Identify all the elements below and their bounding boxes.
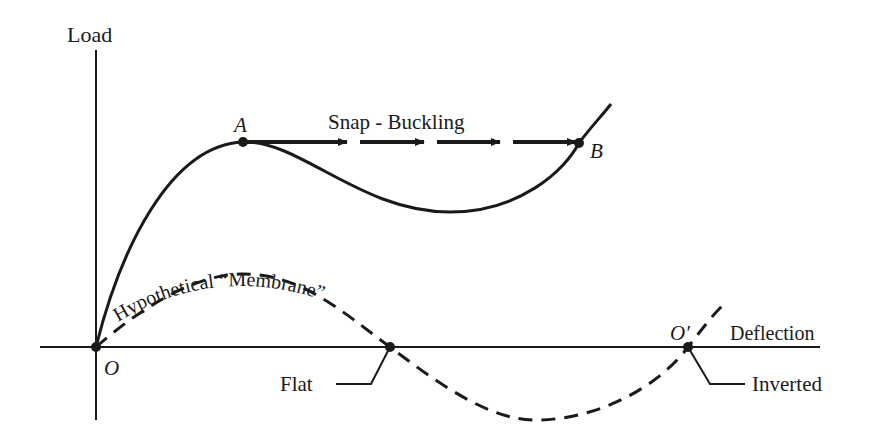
- membrane-label: Hypothetical “Membrane”: [109, 268, 328, 325]
- flat-leader: [336, 347, 390, 384]
- flat-label: Flat: [280, 372, 313, 396]
- snap-buckling-label: Snap - Buckling: [328, 110, 465, 134]
- y-axis-label: Load: [67, 22, 112, 47]
- label-o-prime: O′: [670, 321, 690, 345]
- load-deflection-diagram: Load Deflection Snap - Buckling Hypothet…: [0, 0, 888, 447]
- x-axis-label: Deflection: [730, 322, 814, 344]
- label-a: A: [232, 113, 247, 137]
- inverted-label: Inverted: [752, 372, 822, 396]
- label-origin: O: [104, 356, 119, 380]
- point-origin: [91, 342, 101, 352]
- point-a: [238, 137, 248, 147]
- inverted-leader: [688, 347, 745, 384]
- point-b: [574, 138, 584, 148]
- label-b: B: [590, 139, 603, 163]
